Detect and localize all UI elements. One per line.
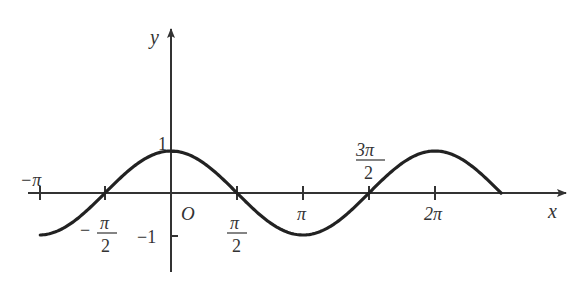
svg-text:2: 2: [232, 236, 241, 256]
svg-text:−: −: [80, 220, 90, 240]
y-tick-label-1: 1: [158, 134, 167, 154]
x-tick-label-pi: π: [297, 204, 307, 224]
x-axis-label: x: [547, 200, 557, 222]
svg-text:3π: 3π: [355, 140, 375, 160]
cosine-graph: y x O 1 −1 −π − π 2 π 2 π 3π 2 2π: [0, 0, 580, 301]
svg-text:π: π: [230, 213, 240, 233]
x-tick-label-pi-half: π 2: [227, 213, 247, 256]
svg-text:π: π: [100, 213, 110, 233]
svg-text:2: 2: [364, 163, 373, 183]
x-tick-label-minus-pi-half: − π 2: [80, 213, 117, 256]
svg-text:2: 2: [101, 236, 110, 256]
x-tick-label-minus-pi: −π: [20, 170, 42, 190]
y-tick-label-minus1: −1: [137, 227, 156, 247]
origin-label: O: [181, 203, 195, 224]
y-axis-label: y: [148, 26, 159, 49]
x-tick-label-2pi: 2π: [424, 204, 443, 224]
x-tick-label-3pi-half: 3π 2: [355, 140, 385, 183]
